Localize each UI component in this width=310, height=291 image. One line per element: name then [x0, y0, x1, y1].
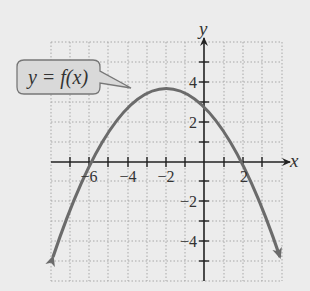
function-graph: −6 −4 −2 2 4 2 −2 −4 x y y = f(x): [0, 0, 310, 291]
x-tick-label: −6: [80, 168, 97, 185]
y-tick-label: 4: [189, 74, 197, 91]
y-tick-label: −4: [180, 233, 197, 250]
callout-label: y = f(x): [26, 66, 88, 89]
x-tick-label: −4: [119, 168, 136, 185]
x-tick-label: −2: [157, 168, 174, 185]
y-axis-label: y: [197, 18, 208, 39]
y-tick-label: 2: [189, 114, 197, 131]
function-callout: y = f(x): [17, 60, 131, 94]
x-axis-label: x: [289, 150, 299, 171]
y-tick-label: −2: [180, 193, 197, 210]
x-tick-label: 2: [240, 168, 248, 185]
